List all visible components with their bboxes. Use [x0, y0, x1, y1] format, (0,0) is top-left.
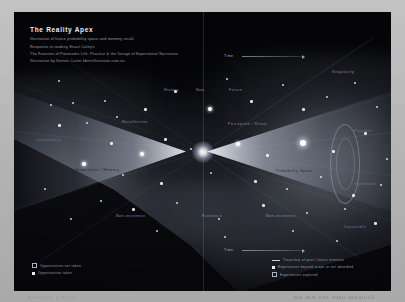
diagram-label-impossible: Impossible	[344, 225, 366, 229]
star-point	[320, 176, 322, 178]
star-point	[132, 208, 135, 211]
star-point	[104, 100, 106, 102]
star-point	[116, 116, 118, 118]
diagram-label-singularity: Singularity	[332, 70, 354, 74]
legend-solid-square-icon	[32, 272, 35, 275]
legend-opportunities: Opportunities not takenOpportunities tak…	[32, 263, 81, 275]
cone-past	[14, 90, 186, 214]
legend-label: Experiences beyond scope or not absorbed	[278, 265, 354, 269]
legend-label: Experiences explored	[280, 273, 318, 277]
diagram-label-probability-space: Probability Space	[276, 169, 313, 173]
star-point	[250, 100, 253, 103]
star-point	[376, 106, 378, 108]
diagram-label-possible: Possible	[354, 129, 372, 133]
legend-label: Opportunities taken	[38, 271, 72, 275]
diagram-label-non-existence: Non-existence	[266, 214, 296, 218]
star-point	[164, 138, 167, 141]
star-point	[352, 194, 355, 197]
star-point	[210, 172, 212, 174]
star-point	[386, 158, 388, 160]
star-point	[236, 142, 240, 146]
star-point	[122, 174, 124, 176]
star-point	[44, 188, 46, 190]
reflection-text-right: we are our own memory	[294, 295, 375, 301]
subtitle-line-4: Illustration by Kenton Carter kbentillus…	[30, 58, 240, 65]
time-axis-arrow-1	[242, 56, 304, 57]
diagram-label-perception-ritual: Perception / Ritual	[228, 122, 267, 126]
legend-opportunities-row: Opportunities taken	[32, 271, 81, 275]
star-point	[300, 140, 306, 146]
reflection-text-left: Kenton Carter	[28, 295, 78, 301]
legend-line-icon	[272, 260, 280, 261]
diagram-label-corporeality: Corporeality	[36, 138, 61, 142]
star-point	[336, 240, 338, 242]
star-point	[326, 96, 328, 98]
legend-label: Opportunities not taken	[40, 264, 81, 268]
star-point	[58, 124, 61, 127]
diagram-label-non-existence: Non-existence	[116, 214, 146, 218]
star-point	[144, 108, 147, 111]
star-point	[58, 80, 60, 82]
star-point	[176, 202, 178, 204]
diagram-label-history: History	[164, 88, 179, 92]
time-axis-label-1: Time	[224, 54, 233, 58]
star-point	[254, 180, 257, 183]
star-point	[208, 107, 212, 111]
subtitle-line-1: Illustration of future probability space…	[30, 36, 240, 43]
star-point	[140, 152, 144, 156]
star-point	[82, 162, 86, 166]
star-point	[160, 182, 163, 185]
diagram-label-existence: Existence	[202, 214, 222, 218]
legend-hollow-square-icon	[32, 263, 37, 268]
legend-trajectories: Trajectory of past / future interestsExp…	[272, 258, 354, 277]
diagram-label-improbable: Improbable	[354, 182, 377, 186]
legend-solid-square-icon	[272, 266, 275, 269]
legend-label: Trajectory of past / future interests	[283, 258, 344, 262]
diagram-label-now: Now	[196, 88, 205, 92]
star-point	[306, 212, 308, 214]
time-axis-arrow-2	[242, 250, 304, 251]
star-point	[374, 222, 377, 225]
time-axis-label-2: Time	[224, 248, 233, 252]
star-point	[292, 230, 294, 232]
star-point	[70, 218, 72, 220]
star-point	[190, 148, 192, 150]
legend-trajectories-row: Experiences beyond scope or not absorbed	[272, 265, 354, 269]
title-block: The Reality Apex Illustration of future …	[30, 26, 240, 66]
legend-hollow-square-icon	[272, 272, 277, 277]
subtitle-line-3: The Features of Panoramic Life: Practice…	[30, 51, 240, 58]
star-point	[218, 218, 220, 220]
star-point	[100, 200, 102, 202]
star-point	[72, 102, 74, 104]
page-title: The Reality Apex	[30, 26, 240, 33]
star-point	[50, 104, 52, 106]
star-point	[226, 78, 228, 80]
diagram-label-future: Future	[229, 88, 242, 92]
diagram-label-experience-memory: Experience / Memory	[76, 168, 120, 172]
poster-root: The Reality Apex Illustration of future …	[0, 0, 405, 302]
star-point	[302, 108, 305, 111]
star-point	[344, 208, 346, 210]
star-point	[224, 236, 226, 238]
star-point	[266, 154, 269, 157]
star-point	[86, 122, 88, 124]
star-point	[282, 84, 284, 86]
legend-opportunities-row: Opportunities not taken	[32, 263, 81, 268]
star-point	[332, 150, 335, 153]
star-point	[380, 184, 382, 186]
legend-trajectories-row: Trajectory of past / future interests	[272, 258, 354, 262]
legend-trajectories-row: Experiences explored	[272, 272, 354, 277]
star-point	[286, 188, 288, 190]
star-point	[156, 230, 158, 232]
star-point	[354, 82, 356, 84]
star-point	[262, 204, 265, 207]
star-point	[110, 142, 113, 145]
cone-future	[207, 90, 391, 214]
artwork-plate: The Reality Apex Illustration of future …	[14, 12, 391, 291]
diagram-label-recollection: Recollection	[122, 120, 148, 124]
subtitle-line-2: Response to reading Stuart Caley's	[30, 44, 240, 51]
